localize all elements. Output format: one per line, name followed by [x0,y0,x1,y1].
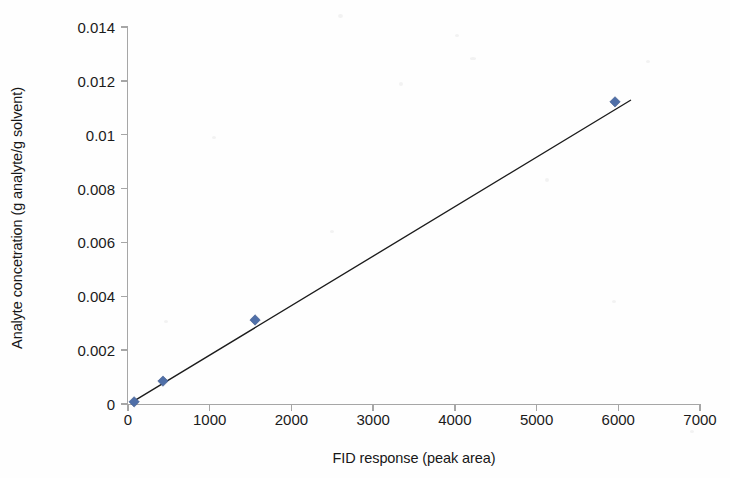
trendline [131,100,630,402]
data-markers [129,97,620,407]
data-layer [0,0,730,478]
data-point-marker [158,376,168,386]
chart-figure: Analyte concetration (g analyte/g solven… [0,0,730,478]
data-point-marker [250,315,260,325]
data-point-marker [610,97,620,107]
x-axis-title: FID response (peak area) [128,450,700,466]
